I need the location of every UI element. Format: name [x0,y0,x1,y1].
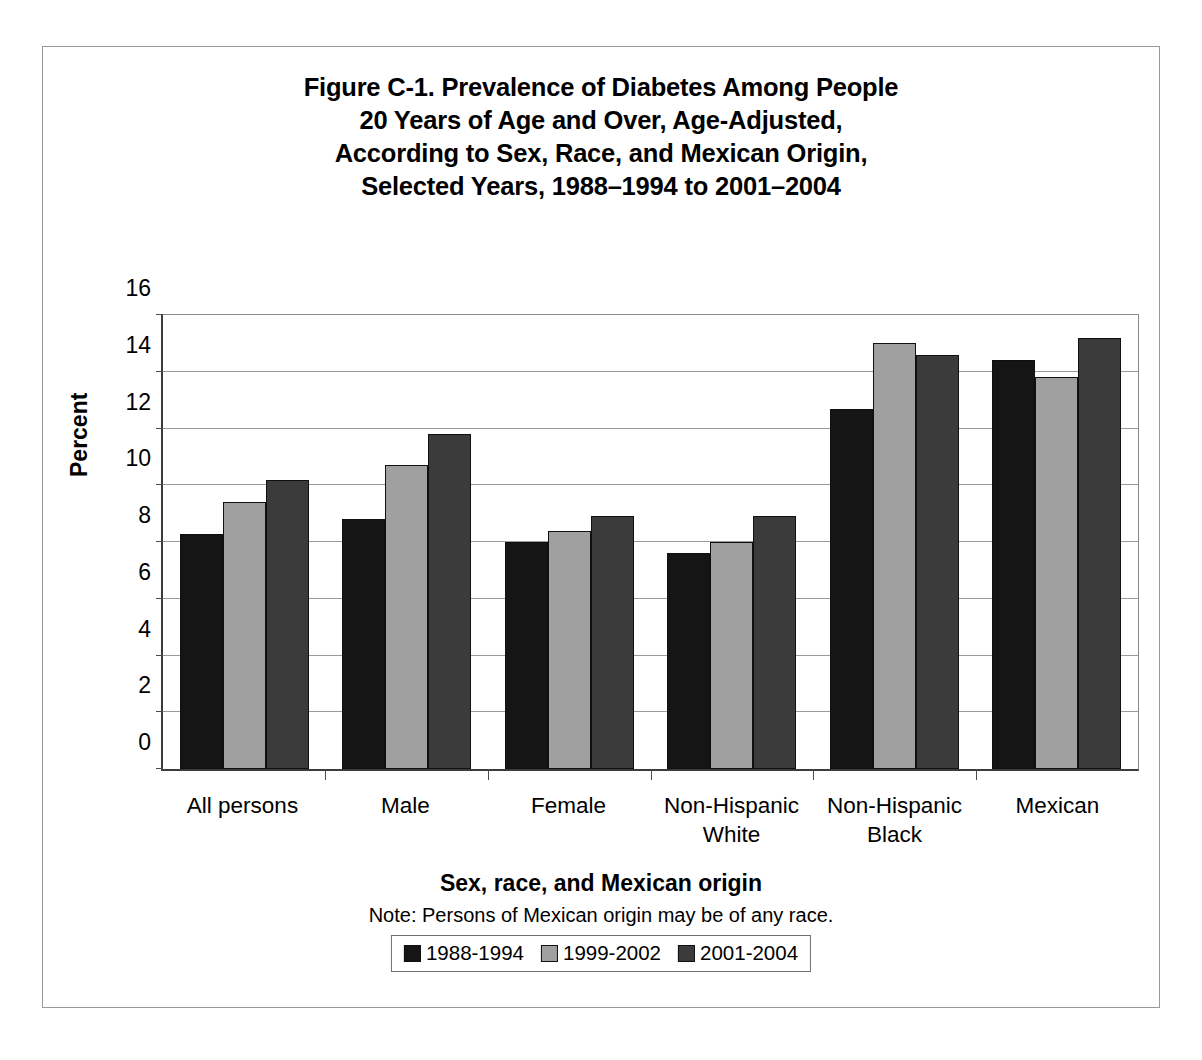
bar-group [488,315,650,769]
bar[interactable] [1035,377,1078,769]
y-tick-label: 6 [138,558,151,585]
y-tick-label: 4 [138,615,151,642]
x-axis-title: Sex, race, and Mexican origin [43,870,1159,897]
x-tick-mark [813,769,814,780]
chart-title-line-2: 20 Years of Age and Over, Age-Adjusted, [43,104,1159,137]
y-tick-label: 8 [138,502,151,529]
y-tick-label: 10 [125,445,151,472]
x-category-label: Non-HispanicWhite [650,791,813,849]
legend-label: 2001-2004 [700,941,798,965]
x-category-label-line: Non-Hispanic [813,791,976,820]
bar[interactable] [667,553,710,769]
bar-group [976,315,1138,769]
y-tick-mark [156,711,163,712]
x-tick-mark [488,769,489,780]
bar[interactable] [591,516,634,769]
y-tick-mark [156,428,163,429]
y-axis-title: Percent [66,393,93,477]
y-tick-label: 14 [125,331,151,358]
y-tick-label: 2 [138,672,151,699]
legend-swatch-icon [404,945,421,962]
legend-swatch-icon [678,945,695,962]
plot-wrap: 0246810121416 All personsMaleFemaleNon-H… [161,314,1139,771]
x-category-label-line: Non-Hispanic [650,791,813,820]
x-category-label: Mexican [976,791,1139,820]
bar[interactable] [916,355,959,769]
y-tick-mark [156,484,163,485]
x-category-label-line: Mexican [976,791,1139,820]
plot-area: 0246810121416 [161,314,1139,771]
x-category-label-line: All persons [161,791,324,820]
bar[interactable] [830,409,873,769]
y-tick-mark [156,314,163,315]
bar[interactable] [428,434,471,769]
chart-title: Figure C-1. Prevalence of Diabetes Among… [43,71,1159,203]
x-category-label: All persons [161,791,324,820]
y-tick-label: 16 [125,275,151,302]
x-category-label-line: Black [813,820,976,849]
x-category-label-line: Female [487,791,650,820]
y-tick-label: 12 [125,388,151,415]
x-tick-mark [325,769,326,780]
bar[interactable] [873,343,916,769]
y-tick-mark [156,541,163,542]
bar-group [651,315,813,769]
legend-item[interactable]: 2001-2004 [678,941,798,965]
bar-group [163,315,325,769]
bar-group [325,315,487,769]
legend: 1988-19941999-20022001-2004 [391,935,811,972]
legend-item[interactable]: 1999-2002 [541,941,661,965]
bar[interactable] [548,531,591,769]
bar[interactable] [180,534,223,770]
chart-title-line-3: According to Sex, Race, and Mexican Orig… [43,137,1159,170]
y-tick-mark [156,598,163,599]
bar[interactable] [385,465,428,769]
x-category-label-line: White [650,820,813,849]
x-category-label: Male [324,791,487,820]
x-category-label-line: Male [324,791,487,820]
x-tick-mark [976,769,977,780]
figure-frame: Figure C-1. Prevalence of Diabetes Among… [42,46,1160,1008]
chart-title-line-1: Figure C-1. Prevalence of Diabetes Among… [43,71,1159,104]
chart-title-line-4: Selected Years, 1988–1994 to 2001–2004 [43,170,1159,203]
bar[interactable] [753,516,796,769]
bar[interactable] [223,502,266,769]
bar[interactable] [1078,338,1121,769]
bar-group [813,315,975,769]
bar[interactable] [505,542,548,769]
y-tick-mark [156,768,163,769]
legend-swatch-icon [541,945,558,962]
bar[interactable] [342,519,385,769]
legend-label: 1988-1994 [426,941,524,965]
legend-item[interactable]: 1988-1994 [404,941,524,965]
x-category-label: Female [487,791,650,820]
chart-note: Note: Persons of Mexican origin may be o… [43,904,1159,927]
bar[interactable] [992,360,1035,769]
x-category-label: Non-HispanicBlack [813,791,976,849]
y-tick-mark [156,655,163,656]
y-tick-label: 0 [138,729,151,756]
bar[interactable] [710,542,753,769]
bar[interactable] [266,480,309,769]
legend-label: 1999-2002 [563,941,661,965]
y-tick-mark [156,371,163,372]
x-tick-mark [651,769,652,780]
